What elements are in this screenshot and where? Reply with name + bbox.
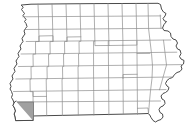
map-svg — [0, 0, 194, 135]
iowa-locator-map: Map of Iowa highlighting one county Iowa… — [0, 0, 194, 135]
iowa-state-outline — [10, 3, 184, 122]
